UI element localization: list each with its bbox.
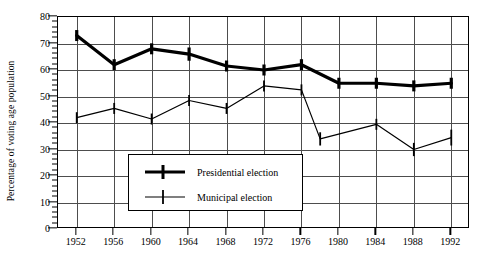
x-major-tick xyxy=(262,228,263,235)
y-major-tick xyxy=(48,201,57,202)
x-major-tick xyxy=(225,228,226,235)
x-tick-label: 1992 xyxy=(440,236,460,247)
x-tick-label: 1952 xyxy=(66,236,86,247)
x-axis-tick-marks xyxy=(57,228,469,236)
x-major-tick xyxy=(337,228,338,235)
x-major-tick xyxy=(187,228,188,235)
y-major-tick xyxy=(48,148,57,149)
x-tick-label: 1988 xyxy=(403,236,423,247)
x-tick-label: 1972 xyxy=(253,236,273,247)
x-tick-label: 1960 xyxy=(141,236,161,247)
y-major-tick xyxy=(48,68,57,69)
series-line-municipal xyxy=(77,86,452,150)
x-tick-label: 1976 xyxy=(290,236,310,247)
x-major-tick xyxy=(450,228,451,235)
y-axis-tick-labels: 01020304050607080 xyxy=(26,0,50,262)
x-major-tick xyxy=(150,228,151,235)
series-line-presidential xyxy=(77,36,452,86)
x-tick-label: 1964 xyxy=(178,236,198,247)
x-axis-tick-labels: 1952195619601964196819721976198019841988… xyxy=(57,236,469,254)
legend-item-municipal: Municipal election xyxy=(129,186,302,208)
x-tick-label: 1968 xyxy=(216,236,236,247)
legend-swatch-presidential xyxy=(143,164,187,180)
x-tick-label: 1956 xyxy=(103,236,123,247)
y-major-tick xyxy=(48,95,57,96)
y-axis-title: Percentage of voting age population xyxy=(0,0,22,262)
x-tick-label: 1980 xyxy=(328,236,348,247)
legend-line-thin xyxy=(143,189,187,205)
legend-label-presidential: Presidential election xyxy=(197,167,278,178)
y-major-tick xyxy=(48,15,57,16)
x-major-tick xyxy=(375,228,376,235)
y-major-tick xyxy=(48,174,57,175)
y-major-tick xyxy=(48,42,57,43)
legend-line-thick xyxy=(143,164,187,180)
x-major-tick xyxy=(412,228,413,235)
legend-item-presidential: Presidential election xyxy=(129,161,302,183)
y-major-tick xyxy=(48,227,57,228)
x-major-tick xyxy=(113,228,114,235)
legend-swatch-municipal xyxy=(143,189,187,205)
x-tick-label: 1984 xyxy=(365,236,385,247)
x-major-tick xyxy=(75,228,76,235)
legend-label-municipal: Municipal election xyxy=(197,192,272,203)
chart-figure: Percentage of voting age population 0102… xyxy=(0,0,484,262)
y-major-tick xyxy=(48,121,57,122)
y-axis-tick-marks xyxy=(48,16,57,228)
chart-legend: Presidential election Municipal election xyxy=(128,154,303,211)
x-major-tick xyxy=(300,228,301,235)
